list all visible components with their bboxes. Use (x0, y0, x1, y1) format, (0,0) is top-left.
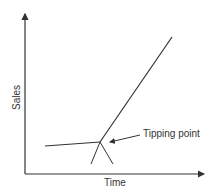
y-axis-label: Sales (11, 83, 22, 113)
annotation-arrow (110, 135, 140, 142)
tipping-point-diagram (0, 0, 212, 196)
x-axis-label: Time (104, 177, 126, 188)
crossing-line-left (91, 142, 100, 164)
tipping-point-label: Tipping point (143, 128, 200, 139)
rapid-growth-line (100, 37, 172, 142)
slow-growth-line (45, 142, 100, 146)
crossing-line-right (100, 142, 113, 164)
